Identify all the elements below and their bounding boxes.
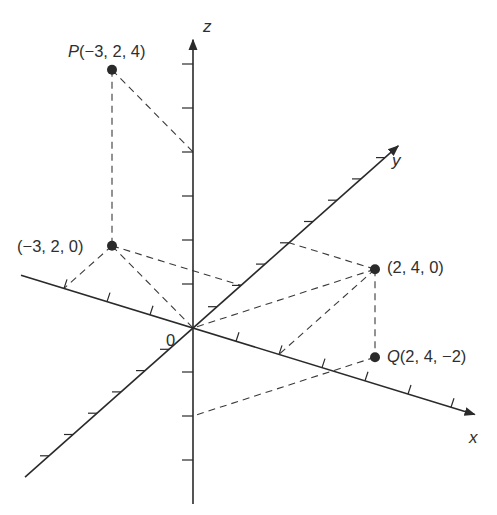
points [107, 65, 380, 362]
x-axis [21, 275, 475, 414]
coordinate-diagram: z y x 0 P(−3, 2, 4) (−3, 2, 0) (2, 4, 0)… [0, 0, 497, 515]
point-p0-label: (−3, 2, 0) [17, 237, 84, 255]
x-axis-tick [150, 306, 153, 315]
point-p [107, 65, 117, 75]
point-r-coords: (2, 4, 0) [387, 258, 444, 276]
x-axis-tick [236, 332, 239, 341]
z-axis-label: z [202, 17, 212, 36]
y-axis-label: y [391, 151, 402, 170]
point-p-coords: (−3, 2, 4) [79, 42, 146, 60]
dashed-segment [193, 357, 375, 416]
dashed-segment [289, 243, 375, 269]
point-p0 [107, 241, 117, 251]
point-q [370, 352, 380, 362]
point-q-label: Q(2, 4, −2) [387, 347, 466, 365]
x-axis-tick [322, 359, 325, 368]
point-p-name: P [68, 42, 79, 60]
dashed-segment [279, 269, 375, 354]
point-r-label: (2, 4, 0) [387, 258, 444, 276]
dashed-segment [193, 269, 375, 328]
origin-label: 0 [166, 331, 175, 349]
point-r [370, 264, 380, 274]
point-p0-coords: (−3, 2, 0) [17, 237, 84, 255]
point-q-coords: (2, 4, −2) [400, 347, 467, 365]
x-axis-tick [451, 398, 454, 407]
point-q-name: Q [387, 347, 400, 365]
point-p-label: P(−3, 2, 4) [68, 42, 146, 60]
x-axis-tick [107, 293, 110, 302]
y-axis [25, 146, 398, 477]
dashed-segment [112, 70, 193, 152]
labels: z y x 0 P(−3, 2, 4) (−3, 2, 0) (2, 4, 0)… [17, 17, 478, 447]
x-axis-tick [365, 372, 368, 381]
x-axis-label: x [468, 428, 478, 447]
x-axis-tick [408, 385, 411, 394]
